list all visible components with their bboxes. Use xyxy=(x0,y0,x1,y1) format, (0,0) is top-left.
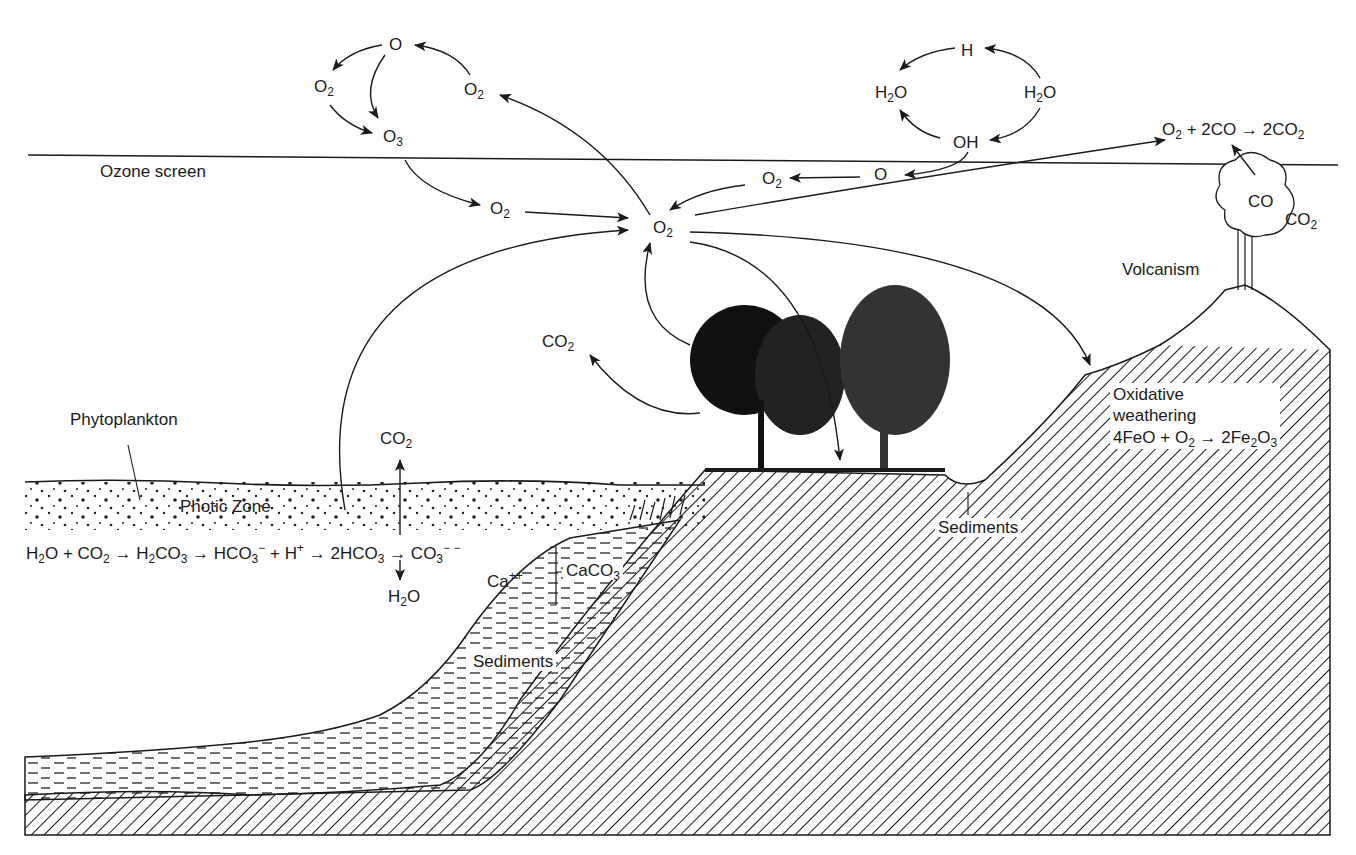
photic-zone xyxy=(25,480,705,530)
label-H2O-left: H2O xyxy=(875,84,907,101)
label-CaCO3: CaCO3 xyxy=(563,561,623,580)
label-O2-right: O2 xyxy=(464,81,484,98)
label-O3: O3 xyxy=(383,128,403,145)
oxidative-weathering-label: Oxidative weathering 4FeO + O2 → 2Fe2O3 xyxy=(1110,383,1280,449)
volcanism-label: Volcanism xyxy=(1122,261,1199,278)
label-CO2-trees: CO2 xyxy=(542,333,574,350)
ocean-sediments-label: Sediments xyxy=(470,652,556,671)
forest-trees xyxy=(690,285,950,472)
phytoplankton-label: Phytoplankton xyxy=(70,411,178,428)
label-Ca: Ca++ xyxy=(487,573,523,590)
label-H2O-right: H2O xyxy=(1024,84,1056,101)
photic-zone-label: Photic Zone xyxy=(180,498,271,515)
label-volcano-CO: CO xyxy=(1248,193,1274,210)
label-O-top: O xyxy=(389,36,402,53)
volcanic-reaction-equation: O2 + 2CO → 2CO2 xyxy=(1162,121,1304,138)
label-O2-mid: O2 xyxy=(762,170,782,187)
carbonate-equation: H2O + CO2 → H2CO3 → HCO3− + H+ → 2HCO3 →… xyxy=(26,545,460,562)
label-volcano-CO2: CO2 xyxy=(1285,211,1317,228)
label-OH: OH xyxy=(953,134,979,151)
label-CO2-ocean: CO2 xyxy=(380,430,412,447)
ozone-screen-label: Ozone screen xyxy=(100,163,206,180)
ozone-cycle-arrows xyxy=(330,45,650,215)
label-O-free: O xyxy=(874,166,887,183)
label-O2-center: O2 xyxy=(653,219,673,236)
label-H: H xyxy=(961,42,973,59)
label-H2O-branch: H2O xyxy=(388,588,420,605)
land-sediments-label: Sediments xyxy=(935,518,1021,537)
label-O2-left-atmo: O2 xyxy=(490,200,510,217)
volcano xyxy=(1160,153,1330,351)
ozone-screen-line xyxy=(28,155,1338,165)
water-cycle-arrows xyxy=(900,48,1040,175)
label-O2-left: O2 xyxy=(314,78,334,95)
